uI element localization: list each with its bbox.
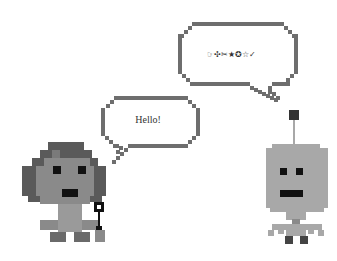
bubble-left-text: Hello!	[122, 114, 174, 125]
girl-left-eye	[53, 166, 61, 174]
robot-right-eye	[296, 168, 303, 175]
antenna-tip	[289, 110, 299, 120]
girl-right-eye	[78, 166, 86, 174]
pixel-art-scene: ☞✣✂★✪☆✓ Hello!	[0, 0, 337, 261]
robot-left-eye	[280, 168, 287, 175]
bubble-right-text: ☞✣✂★✪☆✓	[195, 50, 267, 59]
robot-mouth	[280, 190, 303, 197]
girl-mouth	[62, 189, 78, 197]
